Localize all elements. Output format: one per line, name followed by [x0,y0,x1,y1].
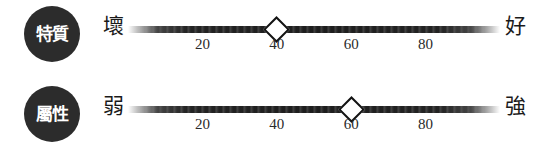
low-anchor-label: 弱 [103,96,124,117]
tick-label: 40 [269,37,284,52]
category-badge-label: 屬性 [36,106,69,123]
high-anchor-label: 好 [505,16,526,37]
low-anchor-label: 壞 [103,16,124,37]
tick-label: 80 [418,117,433,132]
scale-row: 特質 壞 20 40 60 80 好 [0,0,539,70]
tick-label: 60 [344,37,359,52]
slider-track-texture [128,26,500,33]
slider-track-area[interactable]: 20 40 60 80 [128,80,500,150]
scale-row: 屬性 弱 20 40 60 80 強 [0,80,539,150]
tick-label: 80 [418,37,433,52]
category-badge-label: 特質 [36,26,69,43]
slider-track-texture [128,106,500,113]
tick-label: 20 [195,37,210,52]
tick-label: 20 [195,117,210,132]
slider-track-area[interactable]: 20 40 60 80 [128,0,500,70]
tick-label: 40 [269,117,284,132]
category-badge: 屬性 [24,86,80,142]
tick-label: 60 [344,117,359,132]
category-badge: 特質 [24,6,80,62]
high-anchor-label: 強 [505,96,526,117]
